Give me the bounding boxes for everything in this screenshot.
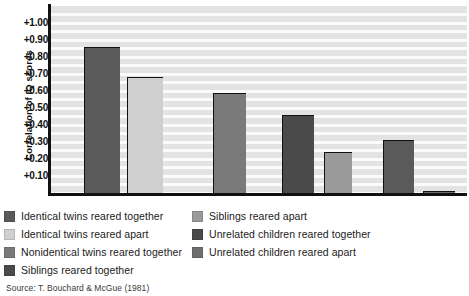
bar: [213, 93, 246, 193]
source-note: Source: T. Bouchard & McGue (1981): [6, 283, 149, 293]
legend-color-swatch: [4, 265, 15, 276]
legend-label: Unrelated children reared apart: [209, 246, 356, 258]
y-tick-label: +0.40: [4, 120, 48, 130]
legend-item[interactable]: Identical twins reared together: [4, 207, 194, 225]
legend-column-left: Identical twins reared togetherIdentical…: [4, 207, 194, 279]
gridline: [50, 39, 467, 42]
legend-label: Unrelated children reared together: [209, 228, 371, 240]
y-tick-label: +0.60: [4, 86, 48, 96]
gridline: [50, 13, 467, 16]
legend-item[interactable]: Siblings reared together: [4, 261, 194, 279]
plot-area: [50, 6, 467, 195]
bar: [383, 140, 414, 193]
legend-label: Nonidentical twins reared together: [21, 246, 182, 258]
y-tick-label: +0.80: [4, 52, 48, 62]
legend-color-swatch: [4, 211, 15, 222]
legend-item[interactable]: Siblings reared apart: [192, 207, 467, 225]
bar: [282, 115, 314, 193]
legend-column-right: Siblings reared apartUnrelated children …: [192, 207, 467, 261]
legend-label: Siblings reared together: [21, 264, 134, 276]
bar: [84, 47, 120, 193]
legend-label: Siblings reared apart: [209, 210, 307, 222]
legend-color-swatch: [4, 229, 15, 240]
y-tick-label: +0.30: [4, 137, 48, 147]
legend-color-swatch: [192, 229, 203, 240]
y-tick-label: +0.90: [4, 35, 48, 45]
bar: [324, 152, 352, 193]
legend-color-swatch: [4, 247, 15, 258]
legend-item[interactable]: Unrelated children reared together: [192, 225, 467, 243]
legend-color-swatch: [192, 211, 203, 222]
legend-item[interactable]: Nonidentical twins reared together: [4, 243, 194, 261]
gridline: [50, 30, 467, 33]
bar: [127, 77, 163, 193]
y-tick-label: +1.00: [4, 18, 48, 28]
y-axis-tick-labels: +1.00+0.90+0.80+0.70+0.60+0.50+0.40+0.30…: [4, 0, 48, 200]
gridline: [50, 22, 467, 25]
legend-color-swatch: [192, 247, 203, 258]
legend-label: Identical twins reared apart: [21, 228, 148, 240]
legend: Identical twins reared togetherIdentical…: [2, 207, 467, 279]
x-axis-line: [48, 193, 467, 196]
legend-item[interactable]: Unrelated children reared apart: [192, 243, 467, 261]
y-tick-label: +0.70: [4, 69, 48, 79]
legend-label: Identical twins reared together: [21, 210, 163, 222]
legend-item[interactable]: Identical twins reared apart: [4, 225, 194, 243]
iq-correlation-chart: Correlation of IQ scores +1.00+0.90+0.80…: [0, 0, 469, 296]
y-tick-label: +0.20: [4, 154, 48, 164]
y-axis-line: [48, 4, 51, 195]
y-tick-label: +0.10: [4, 171, 48, 181]
y-tick-label: +0.50: [4, 103, 48, 113]
